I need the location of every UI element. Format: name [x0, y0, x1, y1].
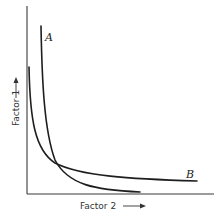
diagram-figure: A B Factor 2 Factor 1: [0, 0, 219, 218]
curve-a-label: A: [44, 31, 53, 44]
curve-a: [41, 26, 140, 192]
x-axis-label: Factor 2: [80, 201, 116, 211]
curve-b-label: B: [185, 168, 194, 181]
curve-b: [29, 67, 197, 181]
right-arrow-icon: [123, 204, 146, 209]
